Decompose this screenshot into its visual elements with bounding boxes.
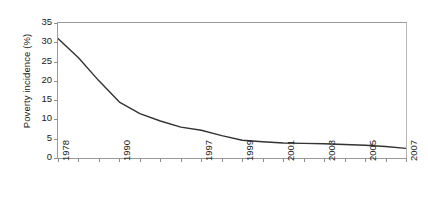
data-series-line [58,23,406,158]
y-axis-tick-label: 5 [30,133,52,143]
y-axis-tick-labels: 05101520253035 [30,22,52,157]
y-axis-tick-mark [54,62,58,63]
x-axis-tick-label: 1978 [61,140,71,161]
poverty-incidence-line-chart: Poverty incidence (%) 05101520253035 197… [0,0,428,206]
x-axis-tick-label: 1990 [122,140,132,161]
x-axis-tick-label: 2001 [286,140,296,161]
x-axis-tick-label: 2005 [368,140,378,161]
y-axis-tick-label: 15 [30,94,52,104]
x-axis-tick-mark [406,158,407,162]
y-axis-tick-label: 20 [30,75,52,85]
x-axis-tick-labels: 19781990199719992001200320052007 [57,161,405,205]
y-axis-tick-mark [54,81,58,82]
x-axis-tick-label: 2007 [409,140,419,161]
y-axis-tick-label: 25 [30,56,52,66]
x-axis-tick-label: 2003 [327,140,337,161]
plot-area [57,22,407,159]
y-axis-tick-label: 10 [30,114,52,124]
y-axis-tick-label: 0 [30,152,52,162]
x-axis-tick-label: 1997 [204,140,214,161]
x-axis-tick-label: 1999 [245,140,255,161]
y-axis-tick-mark [54,100,58,101]
y-axis-tick-label: 30 [30,37,52,47]
y-axis-tick-mark [54,139,58,140]
y-axis-tick-label: 35 [30,17,52,27]
y-axis-tick-mark [54,119,58,120]
y-axis-tick-mark [54,42,58,43]
y-axis-tick-mark [54,23,58,24]
